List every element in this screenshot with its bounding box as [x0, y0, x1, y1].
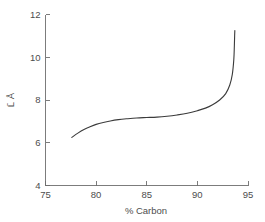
x-axis-tick-labels: 7580859095 — [40, 189, 253, 200]
y-tick-label: 10 — [30, 52, 41, 63]
x-axis-title: % Carbon — [125, 205, 167, 216]
x-tick-label: 85 — [141, 189, 152, 200]
x-tick-label: 95 — [243, 189, 254, 200]
y-axis-title: L̄ Å — [5, 92, 16, 107]
data-series-group — [72, 31, 235, 138]
y-tick-label: 12 — [30, 9, 41, 20]
x-tick-label: 80 — [91, 189, 102, 200]
x-axis-ticks — [46, 181, 249, 186]
x-tick-label: 90 — [192, 189, 203, 200]
chart-canvas: 4681012 7580859095 % Carbon L̄ Å — [0, 0, 265, 222]
y-axis-tick-labels: 4681012 — [30, 9, 41, 191]
y-tick-label: 8 — [35, 94, 40, 105]
chart-figure: 4681012 7580859095 % Carbon L̄ Å — [0, 0, 265, 222]
x-tick-label: 75 — [40, 189, 51, 200]
y-axis-ticks — [46, 15, 51, 186]
y-tick-label: 6 — [35, 137, 40, 148]
data-curve — [72, 31, 235, 138]
